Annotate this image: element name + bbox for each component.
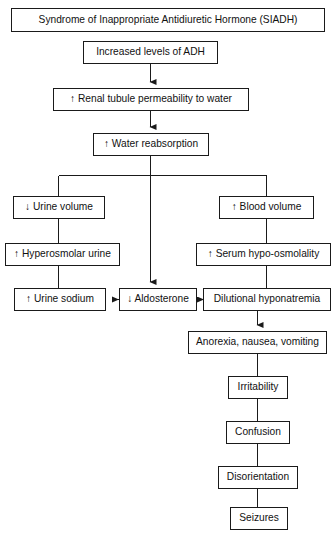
- node-anorexia-nausea-vomiting-label: Anorexia, nausea, vomiting: [191, 337, 324, 348]
- node-siadh: Syndrome of Inappropriate Antidiuretic H…: [11, 8, 325, 32]
- node-blood-volume-label: ↑ Blood volume: [227, 202, 307, 213]
- flowchart-canvas: Syndrome of Inappropriate Antidiuretic H…: [0, 0, 336, 536]
- node-serum-hypo-osmolality-label: ↑ Serum hypo-osmolality: [203, 249, 325, 260]
- node-irritability: Irritability: [228, 376, 288, 399]
- flowchart-edges: [0, 0, 336, 536]
- node-hyperosmolar-urine-label: ↑ Hyperosmolar urine: [9, 249, 116, 260]
- node-siadh-label: Syndrome of Inappropriate Antidiuretic H…: [34, 15, 303, 26]
- node-renal-tubule-permeability-label: ↑ Renal tubule permeability to water: [65, 94, 237, 105]
- node-increased-adh: Increased levels of ADH: [83, 41, 218, 64]
- node-aldosterone: ↓ Aldosterone: [119, 288, 197, 311]
- node-water-reabsorption: ↑ Water reabsorption: [93, 133, 209, 156]
- node-confusion: Confusion: [226, 421, 290, 444]
- node-confusion-label: Confusion: [230, 427, 286, 438]
- node-hyperosmolar-urine: ↑ Hyperosmolar urine: [5, 243, 120, 266]
- node-seizures: Seizures: [230, 507, 288, 530]
- node-water-reabsorption-label: ↑ Water reabsorption: [99, 139, 203, 150]
- node-increased-adh-label: Increased levels of ADH: [91, 47, 210, 58]
- node-dilutional-hyponatremia-label: Dilutional hyponatremia: [209, 294, 325, 305]
- node-blood-volume: ↑ Blood volume: [219, 196, 314, 219]
- node-urine-volume-label: ↓ Urine volume: [20, 202, 98, 213]
- node-serum-hypo-osmolality: ↑ Serum hypo-osmolality: [196, 243, 331, 266]
- node-urine-volume: ↓ Urine volume: [13, 196, 105, 219]
- node-disorientation-label: Disorientation: [222, 472, 294, 483]
- node-renal-tubule-permeability: ↑ Renal tubule permeability to water: [53, 88, 249, 111]
- node-seizures-label: Seizures: [234, 513, 284, 524]
- node-irritability-label: Irritability: [233, 382, 284, 393]
- node-disorientation: Disorientation: [218, 466, 298, 489]
- node-anorexia-nausea-vomiting: Anorexia, nausea, vomiting: [188, 331, 327, 354]
- node-dilutional-hyponatremia: Dilutional hyponatremia: [203, 288, 331, 311]
- node-aldosterone-label: ↓ Aldosterone: [122, 294, 194, 305]
- node-urine-sodium-label: ↑ Urine sodium: [21, 294, 99, 305]
- node-urine-sodium: ↑ Urine sodium: [14, 288, 106, 311]
